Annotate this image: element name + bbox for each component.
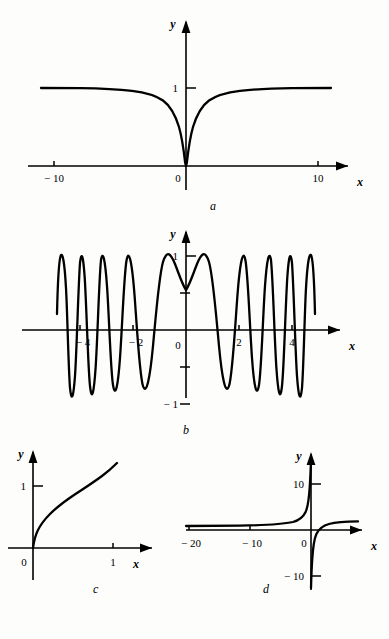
- chart-panel-a: − 10 0 10 1 x y: [0, 6, 389, 201]
- chart-c-caption: c: [93, 583, 98, 595]
- chart-a-xtick-label--10: − 10: [44, 172, 64, 184]
- chart-panel-c: 0 1 1 x y: [0, 440, 190, 590]
- chart-b-xtick-label-0: 0: [175, 339, 181, 351]
- chart-a-ytick-label-1: 1: [173, 82, 179, 94]
- chart-b-xtick-label--4: − 4: [76, 336, 91, 348]
- chart-c-y-axis-arrow: [29, 450, 38, 463]
- chart-c-y-axis-label: y: [16, 447, 24, 461]
- chart-d-xtick-label--20: − 20: [181, 537, 201, 549]
- chart-d-x-axis-arrow: [350, 526, 362, 535]
- chart-panel-b: − 4 − 2 0 2 4 1 − 1 x y: [0, 218, 389, 403]
- chart-d-xtick-label-0: 0: [301, 537, 307, 549]
- chart-d-svg: − 20 − 10 0 10 − 10 x y: [180, 432, 389, 592]
- chart-d-ytick-label--10: − 10: [284, 570, 304, 582]
- figure-sheet: − 10 0 10 1 x y a: [0, 0, 389, 639]
- chart-c-xtick-label-0: 0: [21, 556, 27, 568]
- chart-b-xtick-label-2: 2: [236, 336, 242, 348]
- chart-d-ytick-label-10: 10: [293, 478, 305, 490]
- chart-b-xtick-label-4: 4: [289, 336, 295, 348]
- chart-c-ytick-label-1: 1: [21, 480, 27, 492]
- chart-b-xtick-label--2: − 2: [129, 336, 143, 348]
- chart-d-x-axis-label: x: [370, 539, 377, 553]
- chart-b-x-axis-arrow: [328, 326, 340, 335]
- chart-d-y-axis-label: y: [294, 449, 302, 463]
- chart-d-caption: d: [263, 583, 269, 595]
- chart-panel-d: − 20 − 10 0 10 − 10 x y: [180, 432, 389, 592]
- chart-d-curve-left: [186, 458, 311, 526]
- chart-b-svg: − 4 − 2 0 2 4 1 − 1 x y: [0, 218, 389, 403]
- chart-a-caption: a: [210, 200, 216, 212]
- chart-a-xtick-label-10: 10: [313, 172, 325, 184]
- chart-a-y-axis-label: y: [168, 17, 176, 31]
- chart-b-y-axis-label: y: [168, 227, 176, 241]
- chart-a-y-axis-arrow: [182, 20, 191, 33]
- chart-a-xtick-label-0: 0: [175, 172, 181, 184]
- chart-c-xtick-label-1: 1: [110, 556, 116, 568]
- chart-c-x-axis-label: x: [132, 557, 139, 571]
- chart-b-x-axis-label: x: [348, 339, 355, 353]
- chart-b-ytick-label--1: − 1: [164, 398, 178, 410]
- chart-b-y-axis-arrow: [182, 230, 191, 243]
- chart-a-x-axis-label: x: [356, 175, 363, 189]
- chart-a-x-axis-arrow: [336, 162, 348, 171]
- chart-a-svg: − 10 0 10 1 x y: [0, 6, 389, 201]
- chart-c-svg: 0 1 1 x y: [0, 440, 190, 590]
- chart-c-curve: [33, 463, 117, 548]
- chart-c-x-axis-arrow: [140, 544, 152, 553]
- chart-b-ytick-label-1: 1: [173, 250, 179, 262]
- chart-d-xtick-label--10: − 10: [242, 537, 262, 549]
